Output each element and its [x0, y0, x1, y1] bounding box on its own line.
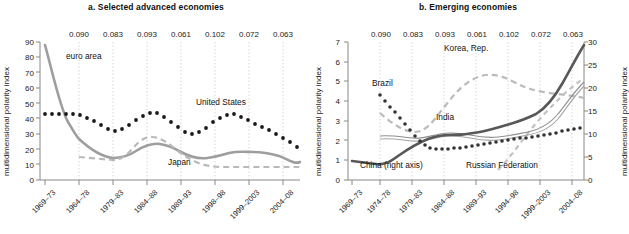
panel-b-label-korea: Korea, Rep.: [444, 43, 488, 53]
panel-b-label-china: China (right axis): [360, 160, 423, 170]
panel-b-label-russia: Russian Federation: [466, 160, 538, 170]
panel-b-label-brazil: Brazil: [372, 78, 393, 88]
panel-a: a. Selected advanced economies multidime…: [0, 0, 312, 234]
panel-a-label-united-states: United States: [196, 97, 246, 107]
panel-b: b. Emerging economies multidimensional p…: [312, 0, 624, 234]
series-china: [352, 45, 584, 164]
panel-b-label-india: India: [436, 112, 454, 122]
series-united-states: [43, 111, 299, 149]
series-euro-area: [45, 45, 300, 163]
panel-a-label-euro-area: euro area: [66, 51, 102, 61]
panel-a-label-japan: Japan: [168, 157, 191, 167]
